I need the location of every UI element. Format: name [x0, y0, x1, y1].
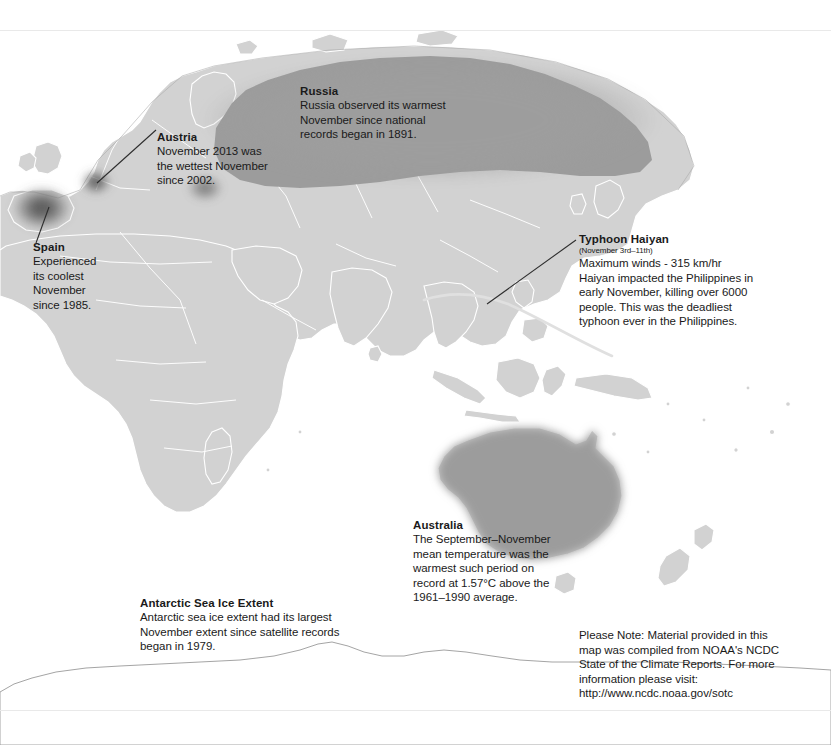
annotation-antarctic-body: Antarctic sea ice extent had its largest…	[140, 610, 339, 654]
annotation-spain: Spain Experienced its coolest November s…	[33, 240, 96, 312]
page-edge-bottom	[0, 710, 831, 711]
island-speck-5	[666, 402, 670, 406]
annotation-australia-line-4: record at 1.57°C above the	[413, 576, 551, 591]
source-note-line-1: Please Note: Material provided in this	[579, 628, 779, 643]
annotation-australia-line-2: mean temperature was the	[413, 547, 551, 562]
island-speck-3	[702, 418, 706, 422]
annotation-russia-line-1: Russia observed its warmest	[300, 98, 446, 113]
annotation-spain-line-4: since 1985.	[33, 298, 96, 313]
annotation-typhoon-line-3: early November, killing over 6000	[579, 285, 753, 300]
annotation-australia-line-3: warmest such period on	[413, 561, 551, 576]
annotation-spain-line-3: November	[33, 283, 96, 298]
source-note-url[interactable]: http://www.ncdc.noaa.gov/sotc	[579, 686, 779, 701]
annotation-spain-line-1: Experienced	[33, 254, 96, 269]
island-speck-6	[746, 386, 750, 390]
austria-highlight	[81, 170, 111, 194]
island-speck-2	[769, 429, 774, 434]
annotation-australia: Australia The September–November mean te…	[413, 518, 551, 605]
annotation-antarctic-line-2: November extent since satellite records	[140, 625, 339, 640]
annotation-spain-title: Spain	[33, 240, 96, 254]
annotation-austria: Austria November 2013 was the wettest No…	[157, 130, 268, 188]
annotation-antarctic-line-1: Antarctic sea ice extent had its largest	[140, 610, 339, 625]
annotation-typhoon-line-5: typhoon ever in the Philippines.	[579, 314, 753, 329]
island-speck-9	[298, 430, 302, 434]
source-note-line-2: map was compiled from NOAA's NCDC	[579, 643, 779, 658]
annotation-typhoon-body: Maximum winds - 315 km/hr Haiyan impacte…	[579, 256, 753, 329]
annotation-austria-line-1: November 2013 was	[157, 144, 268, 159]
annotation-austria-line-2: the wettest November	[157, 159, 268, 174]
annotation-russia-line-3: records began in 1891.	[300, 127, 446, 142]
annotation-russia-line-2: November since national	[300, 113, 446, 128]
annotation-typhoon-line-1: Maximum winds - 315 km/hr	[579, 256, 753, 271]
annotation-austria-body: November 2013 was the wettest November s…	[157, 144, 268, 188]
island-speck-8	[646, 450, 650, 454]
annotation-russia-body: Russia observed its warmest November sin…	[300, 98, 446, 142]
annotation-russia: Russia Russia observed its warmest Novem…	[300, 84, 446, 142]
annotation-antarctic-sea-ice: Antarctic Sea Ice Extent Antarctic sea i…	[140, 596, 339, 654]
land-korea	[570, 194, 586, 214]
annotation-typhoon-title: Typhoon Haiyan	[579, 232, 753, 246]
annotation-typhoon-line-4: people. This was the deadliest	[579, 300, 753, 315]
annotation-spain-body: Experienced its coolest November since 1…	[33, 254, 96, 312]
source-note-line-4: information please visit:	[579, 672, 779, 687]
annotation-typhoon-haiyan: Typhoon Haiyan (November 3rd–11th) Maxim…	[579, 232, 753, 329]
island-speck-10	[266, 468, 270, 472]
annotation-australia-body: The September–November mean temperature …	[413, 532, 551, 605]
annotation-australia-line-5: 1961–1990 average.	[413, 590, 551, 605]
island-speck-4	[786, 402, 791, 407]
annotation-russia-title: Russia	[300, 84, 446, 98]
island-speck-7	[612, 432, 617, 437]
annotation-typhoon-line-2: Haiyan impacted the Philippines in	[579, 271, 753, 286]
island-speck-1	[734, 448, 738, 452]
annotation-australia-line-1: The September–November	[413, 532, 551, 547]
climate-map-page: Russia Russia observed its warmest Novem…	[0, 0, 831, 745]
spain-highlight	[12, 186, 72, 230]
annotation-austria-line-3: since 2002.	[157, 173, 268, 188]
source-note: Please Note: Material provided in this m…	[579, 628, 779, 701]
annotation-antarctic-line-3: began in 1979.	[140, 639, 339, 654]
annotation-spain-line-2: its coolest	[33, 269, 96, 284]
page-edge-top	[0, 30, 831, 31]
source-note-line-3: State of the Climate Reports. For more	[579, 657, 779, 672]
annotation-australia-title: Australia	[413, 518, 551, 532]
annotation-typhoon-subtitle: (November 3rd–11th)	[579, 246, 753, 256]
annotation-antarctic-title: Antarctic Sea Ice Extent	[140, 596, 339, 610]
annotation-austria-title: Austria	[157, 130, 268, 144]
